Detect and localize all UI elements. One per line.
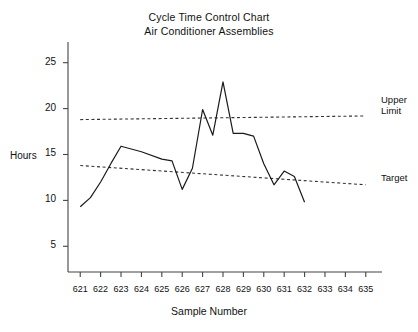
y-tick-label: 15 (30, 147, 56, 158)
chart-plot-area (0, 0, 418, 332)
x-tick-label: 635 (353, 284, 379, 294)
y-tick-label: 10 (30, 193, 56, 204)
chart-figure: Cycle Time Control Chart Air Conditioner… (0, 0, 418, 332)
upper-limit-line (80, 116, 366, 120)
y-tick-label: 20 (30, 102, 56, 113)
y-tick-label: 5 (30, 239, 56, 250)
data-line-cycle-time (80, 82, 304, 207)
target-line (80, 166, 366, 185)
y-tick-label: 25 (30, 56, 56, 67)
